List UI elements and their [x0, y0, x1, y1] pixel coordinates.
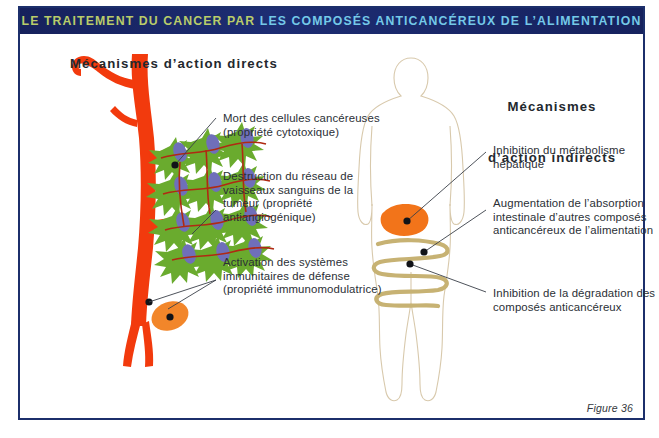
label-compound-degradation: Inhibition de la dégradation des composé… [493, 287, 659, 314]
left-leader-lines [168, 118, 216, 309]
right-leader-dots [403, 217, 427, 267]
label-cytotoxic: Mort des cellules cancéreuses (propriété… [223, 112, 383, 139]
left-leader-dots [145, 161, 178, 320]
figure-title-accent: LES COMPOSÉS ANTICANCÉREUX DE L’ALIMENTA… [260, 14, 642, 28]
liver-icon [381, 204, 429, 236]
human-body-illustration [358, 58, 486, 401]
right-panel-heading-line1: Mécanismes [472, 98, 632, 115]
figure-title-highlight: LE TRAITEMENT DU CANCER PAR [22, 14, 260, 28]
blood-vessel-icon [72, 54, 194, 367]
immune-cell-icon [147, 296, 192, 335]
label-intestinal-absorption: Augmentation de l’absorption intestinale… [493, 197, 658, 238]
left-panel-heading: Mécanismes d’action directs [70, 56, 278, 71]
body-outline-icon [358, 58, 465, 401]
label-immunomodulatory: Activation des systèmes immunitaires de … [223, 256, 385, 297]
figure-title-bar: LE TRAITEMENT DU CANCER PAR LES COMPOSÉS… [20, 8, 643, 34]
right-panel-heading: Mécanismes d’action indirects [472, 64, 632, 200]
immune-leader-line [149, 280, 216, 302]
figure-canvas: Mécanismes d’action directs Mécanismes d… [20, 34, 643, 420]
figure-card: LE TRAITEMENT DU CANCER PAR LES COMPOSÉS… [18, 6, 645, 420]
figure-caption: Figure 36 [587, 402, 633, 414]
label-antiangiogenic: Destruction du réseau de vaisseaux sangu… [223, 170, 383, 224]
label-hepatic-metabolism: Inhibition du métabolisme hépatique [493, 144, 653, 171]
